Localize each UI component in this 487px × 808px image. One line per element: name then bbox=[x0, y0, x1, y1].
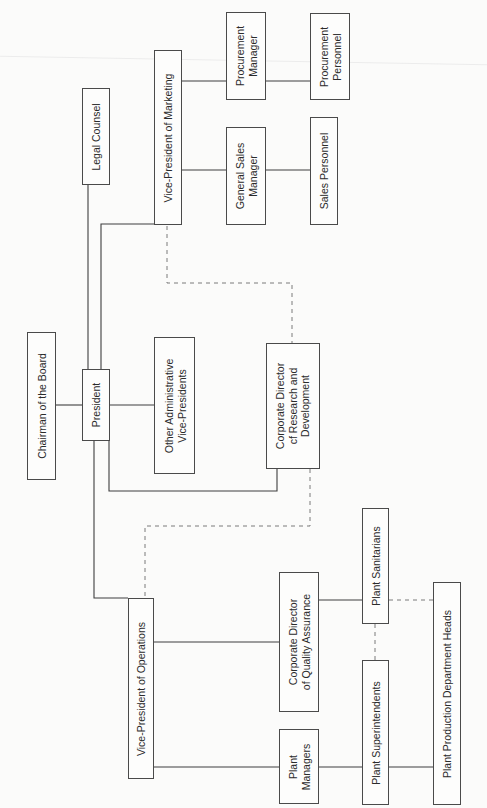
node-vp-operations: Vice-President of Operations bbox=[128, 598, 154, 779]
node-label: Plant Managers bbox=[287, 743, 312, 790]
node-chairman: Chairman of the Board bbox=[27, 332, 56, 480]
node-president: President bbox=[82, 369, 110, 441]
node-qa-director: Corporate Director of Quality Assurance bbox=[279, 572, 319, 712]
org-chart: Chairman of the Board President Legal Co… bbox=[0, 0, 487, 808]
node-label: Corporate Director of Quality Assurance bbox=[287, 594, 312, 690]
node-label: Plant Sanitarians bbox=[369, 526, 382, 605]
node-label: Plant Production Department Heads bbox=[441, 609, 454, 777]
node-plant-sanitarians: Plant Sanitarians bbox=[362, 508, 389, 624]
node-plant-superintendents: Plant Superintendents bbox=[362, 660, 389, 805]
node-legal-counsel: Legal Counsel bbox=[82, 88, 110, 185]
node-label: General Sales Manager bbox=[234, 143, 259, 210]
node-label: Procurement Personnel bbox=[318, 26, 343, 86]
node-procurement-manager: Procurement Manager bbox=[226, 12, 266, 100]
node-label: President bbox=[90, 383, 103, 427]
node-label: Sales Personnel bbox=[318, 133, 331, 209]
node-plant-managers: Plant Managers bbox=[279, 729, 319, 804]
node-label: Chairman of the Board bbox=[35, 353, 48, 459]
node-label: Vice-President of Marketing bbox=[162, 73, 175, 202]
node-rd-director: Corporate Director cf Research and Devel… bbox=[266, 343, 320, 469]
connector-lines bbox=[0, 0, 487, 808]
node-vp-marketing: Vice-President of Marketing bbox=[154, 50, 182, 225]
node-plant-production-heads: Plant Production Department Heads bbox=[433, 582, 461, 805]
node-label: Corporate Director cf Research and Devel… bbox=[274, 363, 312, 449]
node-sales-personnel: Sales Personnel bbox=[310, 117, 338, 225]
node-general-sales-manager: General Sales Manager bbox=[226, 127, 266, 225]
node-label: Other Administrative Vice-Presidents bbox=[162, 358, 187, 453]
node-other-admin-vps: Other Administrative Vice-Presidents bbox=[154, 337, 195, 474]
node-procurement-personnel: Procurement Personnel bbox=[310, 13, 350, 100]
node-label: Vice-President of Operations bbox=[135, 621, 148, 755]
node-label: Plant Superintendents bbox=[369, 681, 382, 784]
node-label: Legal Counsel bbox=[90, 103, 103, 170]
node-label: Procurement Manager bbox=[234, 26, 259, 86]
